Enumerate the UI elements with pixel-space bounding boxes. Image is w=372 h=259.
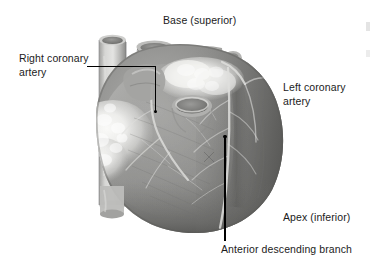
right-coronary-leader-vertical	[155, 66, 156, 113]
heart-anatomy-figure: Base (superior) Right coronary artery Le…	[0, 0, 372, 259]
edge-artifact	[366, 50, 370, 57]
apex	[96, 182, 296, 240]
label-left-coronary-artery: Left coronary artery	[283, 81, 346, 108]
label-right-coronary-artery: Right coronary artery	[19, 52, 89, 79]
label-apex-inferior: Apex (inferior)	[283, 211, 350, 225]
label-base-superior: Base (superior)	[163, 14, 236, 28]
right-coronary-leader-horizontal	[87, 66, 156, 67]
label-anterior-descending-branch: Anterior descending branch	[221, 243, 352, 257]
edge-artifact	[366, 22, 370, 31]
anterior-descending-leader-endpoint	[223, 135, 226, 138]
inferior-vena-cava	[100, 186, 124, 218]
anterior-descending-leader-vertical	[224, 136, 225, 241]
